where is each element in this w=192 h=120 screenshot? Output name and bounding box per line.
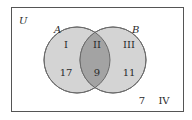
venn-diagram: U A B I 17 II 9 III 11 7 IV: [0, 0, 192, 120]
region-iii-label: III: [123, 39, 135, 50]
region-iv-count: 7: [139, 95, 145, 106]
region-iv-label: IV: [158, 95, 170, 106]
region-ii-count: 9: [94, 67, 100, 78]
set-b-label: B: [131, 24, 139, 35]
region-i-count: 17: [60, 67, 73, 78]
universe-label: U: [19, 15, 28, 26]
region-ii-label: II: [93, 39, 101, 50]
region-i-label: I: [64, 39, 68, 50]
region-iii-count: 11: [123, 67, 136, 78]
set-a-label: A: [53, 24, 61, 35]
